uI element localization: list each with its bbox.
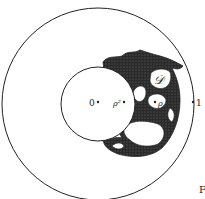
- rho-label: ρ: [157, 99, 163, 108]
- annulus-diagram: 0 ρ² ρ 1 𝒟 F: [0, 0, 205, 199]
- hole-rho-point: [148, 94, 166, 109]
- origin-point: [97, 101, 99, 103]
- origin-label: 0: [89, 98, 95, 108]
- rho-point: [154, 101, 156, 103]
- one-label: 1: [196, 98, 202, 108]
- caption-fragment: F: [199, 184, 205, 195]
- rho-squared-point: [123, 101, 125, 103]
- one-point: [192, 101, 194, 103]
- rho-squared-label: ρ²: [112, 99, 121, 108]
- inner-circle: [61, 67, 135, 141]
